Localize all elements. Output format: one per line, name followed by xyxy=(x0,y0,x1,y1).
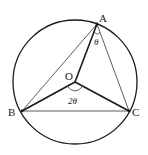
angle-arc-O xyxy=(67,86,83,91)
angle-arc-A xyxy=(94,32,100,34)
circle-inscribed-angle-diagram: A B C O θ 2θ xyxy=(0,0,148,155)
label-A: A xyxy=(99,12,107,24)
angle-label-2theta: 2θ xyxy=(68,96,78,106)
segment-AC xyxy=(97,24,129,111)
point-C-dot xyxy=(128,110,131,113)
angle-label-theta: θ xyxy=(94,37,99,47)
label-O: O xyxy=(65,70,73,82)
radius-OA xyxy=(75,24,97,82)
point-B-dot xyxy=(21,110,24,113)
point-A-dot xyxy=(96,23,99,26)
segment-AB xyxy=(22,24,97,111)
label-C: C xyxy=(132,106,139,118)
label-B: B xyxy=(8,106,15,118)
